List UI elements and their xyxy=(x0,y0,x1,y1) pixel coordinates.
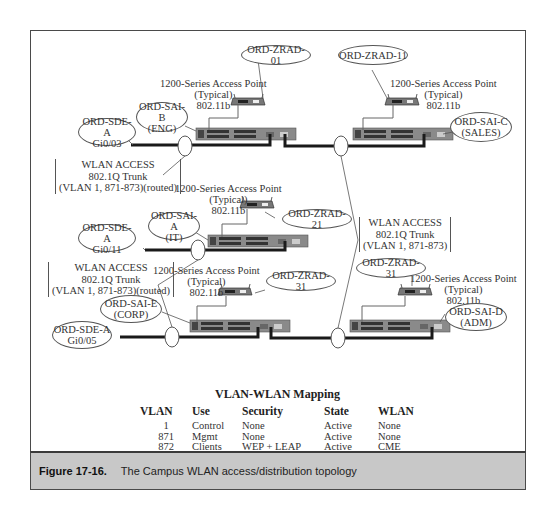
cell-wlan: None xyxy=(378,421,438,432)
table-header-row: VLAN Use Security State WLAN xyxy=(140,405,438,421)
node-zrad-11: ORD-ZRAD-11 xyxy=(338,45,408,65)
table-row: 1 Control None Active None xyxy=(140,421,438,432)
cell-security: None xyxy=(242,421,324,432)
node-sai-b: ORD-SAI-B(ENG) xyxy=(136,102,188,132)
col-vlan: VLAN xyxy=(140,405,192,421)
node-sai-e: ORD-SAI-E(CORP) xyxy=(100,295,162,323)
cell-use: Control xyxy=(192,421,242,432)
figure-caption: Figure 17-16. The Campus WLAN access/dis… xyxy=(30,451,526,490)
col-security: Security xyxy=(242,405,324,421)
col-use: Use xyxy=(192,405,242,421)
switch-sai-a xyxy=(208,235,308,247)
cell-vlan: 1 xyxy=(140,421,192,432)
figure-number: Figure 17-16. xyxy=(39,465,107,477)
trunk-label-right: WLAN ACCESS802.1Q Trunk(VLAN 1, 871-873) xyxy=(359,217,451,252)
trunk-label-top-left: WLAN ACCESS802.1Q Trunk(VLAN 1, 871-873)… xyxy=(55,159,181,194)
node-sai-c: ORD-SAI-C(SALES) xyxy=(450,112,512,142)
col-state: State xyxy=(324,405,378,421)
node-sde-11: ORD-SDE-AGi0/11 xyxy=(78,224,136,252)
ap-label-row1-right: 1200-Series Access Point(Typical)802.11b xyxy=(390,78,497,111)
node-sde-05: ORD-SDE-AGi0/05 xyxy=(52,321,112,349)
node-sai-a: ORD-SAI-A(IT) xyxy=(148,212,200,240)
switch-sai-e xyxy=(190,320,290,332)
mapping-table-title: VLAN-WLAN Mapping xyxy=(0,387,555,402)
switch-sai-b xyxy=(196,128,296,140)
node-zrad-01: ORD-ZRAD-01 xyxy=(241,45,311,65)
ap-label-row3-right: 1200-Series Access Point(Typical)802.11b xyxy=(410,273,517,306)
figure-caption-text: The Campus WLAN access/distribution topo… xyxy=(121,465,357,477)
node-sai-d: ORD-SAI-D(ADM) xyxy=(445,303,507,331)
switch-sai-d xyxy=(350,320,450,332)
node-zrad-21: ORD-ZRAD-21 xyxy=(282,209,352,229)
node-zrad-31-left: ORD-ZRAD-31 xyxy=(266,271,336,291)
cell-state: Active xyxy=(324,421,378,432)
node-sde-03: ORD-SDE-AGi0/03 xyxy=(78,118,136,146)
col-wlan: WLAN xyxy=(378,405,438,421)
switch-sai-c xyxy=(353,128,453,140)
node-zrad-31-right: ORD-ZRAD-31 xyxy=(356,258,426,278)
trunk-label-mid-left: WLAN ACCESS802.1Q Trunk(VLAN 1, 871-873)… xyxy=(48,262,174,297)
